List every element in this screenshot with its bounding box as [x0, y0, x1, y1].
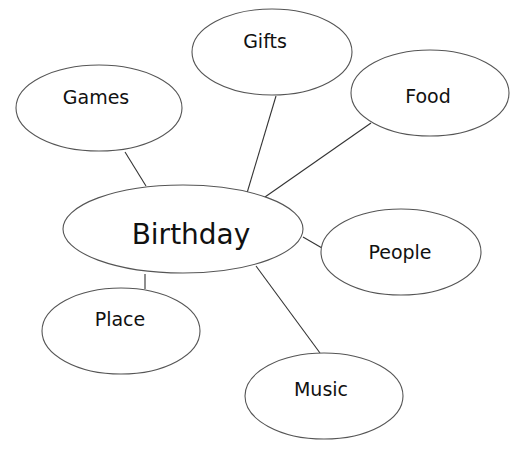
node-ellipse-place — [42, 288, 200, 374]
node-music: Music — [245, 353, 403, 439]
node-ellipse-games — [16, 65, 182, 151]
edge-birthday-music — [256, 266, 320, 353]
node-label-music: Music — [294, 378, 348, 400]
node-label-place: Place — [95, 308, 146, 330]
node-food: Food — [351, 50, 509, 136]
node-gifts: Gifts — [192, 9, 352, 95]
center-label: Birthday — [132, 218, 251, 251]
node-label-games: Games — [63, 86, 129, 108]
center-node-birthday: Birthday — [63, 185, 303, 273]
edge-gifts-birthday — [247, 96, 276, 193]
node-people: People — [321, 209, 481, 295]
mind-map-canvas: Birthday Games Gifts Food People Place M… — [0, 0, 527, 458]
node-label-food: Food — [405, 85, 451, 107]
edge-food-birthday — [265, 123, 371, 197]
node-label-people: People — [368, 241, 431, 263]
edge-birthday-people — [303, 237, 322, 248]
node-games: Games — [16, 65, 182, 151]
edge-games-birthday — [125, 152, 146, 186]
node-ellipse-gifts — [192, 9, 352, 95]
node-label-gifts: Gifts — [243, 30, 287, 52]
node-place: Place — [42, 288, 200, 374]
